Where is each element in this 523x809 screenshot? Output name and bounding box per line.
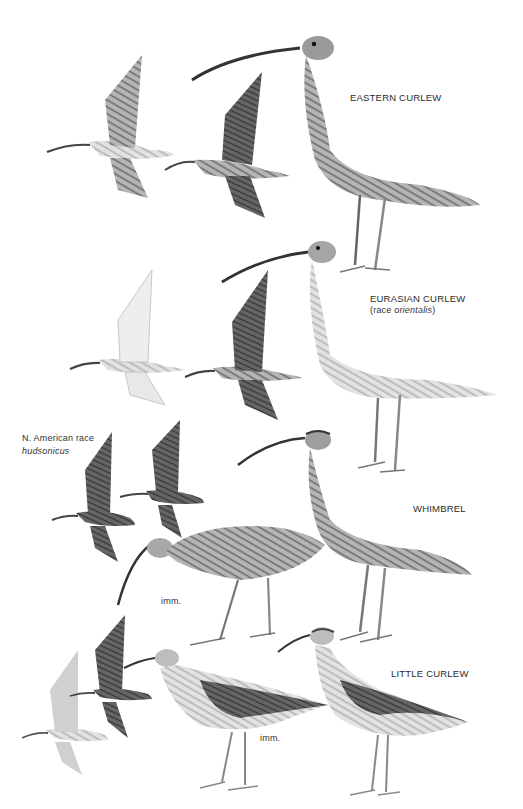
race-note-name: orientalis: [394, 305, 432, 315]
age-label-whimbrel-imm: imm.: [161, 596, 181, 606]
little-curlew-flight-dark: [70, 615, 152, 738]
whimbrel-immature: [118, 526, 325, 645]
species-label-little-curlew: LITTLE CURLEW: [391, 668, 469, 679]
species-label-eurasian-curlew: EURASIAN CURLEW: [370, 293, 465, 304]
eurasian-curlew-flight-light: [70, 270, 185, 405]
species-label-whimbrel: WHIMBREL: [413, 503, 466, 514]
race-note-suffix: ): [432, 305, 435, 315]
field-guide-plate: EASTERN CURLEW EURASIAN CURLEW (race ori…: [0, 0, 523, 809]
race-note-prefix: (race: [370, 305, 394, 315]
race-name-whimbrel: hudsonicus: [22, 446, 70, 456]
eurasian-curlew-flight-dark: [185, 270, 302, 420]
eurasian-curlew-standing: [222, 241, 497, 472]
species-label-eastern-curlew: EASTERN CURLEW: [350, 92, 441, 103]
little-curlew-immature: [124, 649, 328, 790]
little-curlew-flight-light: [22, 650, 108, 775]
bird-illustrations: [0, 0, 523, 809]
eastern-curlew-flight-light: [47, 55, 175, 198]
age-label-little-curlew-imm: imm.: [260, 733, 280, 743]
whimbrel-hudsonicus-flight-2: [120, 420, 204, 538]
race-label-whimbrel: N. American race: [22, 433, 94, 443]
race-note-eurasian-curlew: (race orientalis): [370, 305, 435, 315]
eastern-curlew-flight-dark: [165, 72, 290, 218]
